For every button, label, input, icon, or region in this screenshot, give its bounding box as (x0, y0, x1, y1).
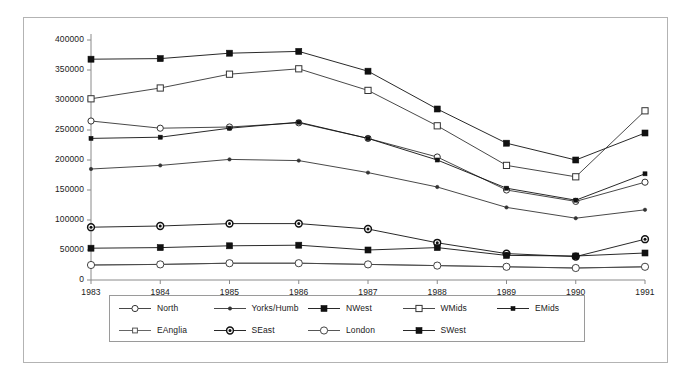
marker-bullseye-dot (436, 241, 439, 244)
marker-large-open-circle (157, 261, 164, 268)
legend-label: EMids (535, 303, 559, 313)
marker-large-open-circle (226, 260, 233, 267)
marker-large-open-circle (434, 262, 441, 269)
y-tick-label: 350000 (40, 64, 84, 74)
marker-bullseye-dot (297, 222, 300, 225)
marker-open-circle (157, 125, 163, 131)
marker-small-dot (505, 206, 508, 209)
marker-small-dot (436, 185, 439, 188)
marker-filled-square (227, 243, 233, 249)
marker-filled-square (321, 305, 327, 311)
marker-filled-square (365, 247, 371, 253)
series-line (91, 121, 645, 201)
marker-filled-square (157, 56, 163, 62)
legend-item-seast[interactable]: SEast (213, 319, 275, 341)
legend-item-swest[interactable]: SWest (402, 319, 466, 341)
y-tick-label: 0 (40, 274, 84, 284)
series-london (87, 260, 648, 272)
series-north (88, 118, 648, 205)
marker-filled-square (88, 245, 94, 251)
marker-filled-square (88, 56, 94, 62)
legend-item-london[interactable]: London (307, 319, 375, 341)
legend-row-1: NorthYorks/HumbNWestWMidsEMids (110, 297, 584, 319)
chart-legend: NorthYorks/HumbNWestWMidsEMids EAngliaSE… (109, 295, 585, 342)
legend-label: London (346, 325, 375, 335)
series-nwest (88, 48, 648, 163)
marker-open-square (88, 96, 94, 102)
marker-open-square (157, 85, 163, 91)
legend-item-eanglia[interactable]: EAnglia (118, 319, 187, 341)
marker-small-filled-square (228, 126, 232, 130)
marker-filled-square (504, 252, 510, 258)
legend-label: Yorks/Humb (252, 303, 299, 313)
legend-label: NWest (346, 303, 372, 313)
marker-large-open-circle (320, 326, 327, 333)
marker-small-filled-square (297, 120, 301, 124)
marker-filled-square (573, 253, 579, 259)
x-tick-label: 1991 (625, 287, 665, 297)
legend-label: WMids (441, 303, 467, 313)
marker-filled-square (296, 48, 302, 54)
y-tick-label: 100000 (40, 214, 84, 224)
marker-filled-square (434, 106, 440, 112)
y-tick-label: 200000 (40, 154, 84, 164)
series-seast (88, 220, 649, 260)
legend-marker-large-open-circle (307, 325, 341, 336)
series-line (91, 159, 645, 218)
legend-item-emids[interactable]: EMids (496, 297, 559, 319)
legend-item-yorks-humb[interactable]: Yorks/Humb (213, 297, 299, 319)
chart-figure: 0500001000001500002000002500003000003500… (23, 17, 668, 363)
marker-bullseye-dot (644, 238, 647, 241)
legend-item-north[interactable]: North (118, 297, 178, 319)
legend-marker-filled-square (307, 303, 341, 314)
marker-small-filled-square (505, 186, 509, 190)
marker-open-circle (642, 179, 648, 185)
legend-marker-small-dot (213, 303, 247, 314)
legend-marker-bullseye (213, 325, 247, 336)
series-wmids (88, 66, 648, 180)
marker-filled-square (365, 68, 371, 74)
marker-large-open-circle (503, 263, 510, 270)
series-yorks-humb (89, 158, 646, 220)
legend-swatch (402, 325, 436, 336)
marker-filled-square (157, 245, 163, 251)
marker-small-dot (574, 217, 577, 220)
marker-large-open-circle (87, 261, 94, 268)
marker-open-square (434, 123, 440, 129)
marker-open-square (365, 87, 371, 93)
marker-bullseye-dot (159, 225, 162, 228)
y-tick-label: 250000 (40, 124, 84, 134)
marker-filled-square (416, 327, 422, 333)
marker-open-square (415, 305, 421, 311)
marker-filled-square (642, 250, 648, 256)
marker-bullseye-dot (228, 222, 231, 225)
marker-open-circle (132, 305, 138, 311)
legend-label: EAnglia (157, 325, 187, 335)
series-line (91, 122, 645, 200)
line-chart-svg (69, 34, 651, 286)
marker-open-square (226, 71, 232, 77)
series-layer (87, 48, 648, 271)
marker-open-square (573, 174, 579, 180)
marker-small-dot (228, 306, 231, 309)
marker-small-filled-square (574, 198, 578, 202)
marker-large-open-circle (641, 263, 648, 270)
marker-large-open-circle (572, 264, 579, 271)
marker-open-square (296, 66, 302, 72)
legend-swatch (496, 303, 530, 314)
legend-swatch (118, 303, 152, 314)
marker-small-filled-square (366, 136, 370, 140)
marker-small-filled-square (158, 135, 162, 139)
y-tick-label: 300000 (40, 94, 84, 104)
marker-filled-square (573, 157, 579, 163)
marker-open-circle (88, 118, 94, 124)
marker-open-square (503, 162, 509, 168)
legend-item-nwest[interactable]: NWest (307, 297, 372, 319)
series-line (91, 51, 645, 160)
legend-marker-small-open-square (118, 325, 152, 336)
marker-large-open-circle (364, 261, 371, 268)
legend-swatch (307, 325, 341, 336)
legend-item-wmids[interactable]: WMids (402, 297, 467, 319)
legend-swatch (213, 325, 247, 336)
marker-small-dot (366, 171, 369, 174)
